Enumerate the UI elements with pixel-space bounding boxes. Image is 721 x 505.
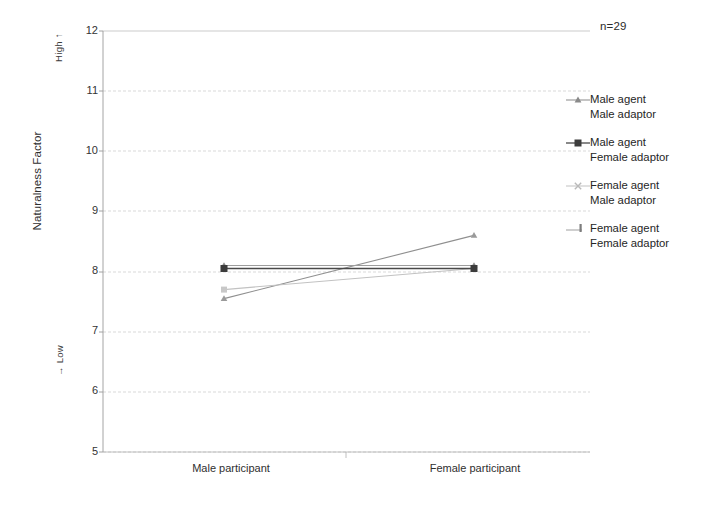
- legend-marker-square-icon: [566, 136, 590, 149]
- chart-figure: Naturalness Factor High ↑ → Low 12 11 10…: [0, 0, 721, 505]
- legend-label-line-1: Male agent: [590, 135, 669, 150]
- legend-marker-cross-icon: [566, 179, 590, 192]
- legend-item-male-agent-female-adaptor: Male agent Female adaptor: [566, 135, 718, 164]
- gridlines-horizontal: [103, 31, 590, 452]
- y-axis-ticks: [99, 31, 103, 452]
- legend-item-male-agent-male-adaptor: Male agent Male adaptor: [566, 92, 718, 121]
- legend-item-female-agent-female-adaptor: Female agent Female adaptor: [566, 221, 718, 250]
- legend-label-female-agent-female-adaptor: Female agent Female adaptor: [590, 221, 669, 250]
- legend-label-male-agent-female-adaptor: Male agent Female adaptor: [590, 135, 669, 164]
- legend-label-line-2: Female adaptor: [590, 150, 669, 165]
- legend-label-female-agent-male-adaptor: Female agent Male adaptor: [590, 178, 659, 207]
- legend-label-line-1: Female agent: [590, 221, 669, 236]
- legend-label-line-2: Female adaptor: [590, 236, 669, 251]
- legend-label-line-2: Male adaptor: [590, 193, 659, 208]
- legend-label-line-1: Female agent: [590, 178, 659, 193]
- series-female-agent-female-adaptor: [221, 266, 477, 293]
- legend-item-female-agent-male-adaptor: Female agent Male adaptor: [566, 178, 718, 207]
- chart-legend: Male agent Male adaptor Male agent Femal…: [566, 92, 718, 264]
- legend-marker-triangle-icon: [566, 93, 590, 106]
- legend-marker-bar-icon: [566, 222, 590, 235]
- legend-label-line-2: Male adaptor: [590, 107, 656, 122]
- legend-label-line-1: Male agent: [590, 92, 656, 107]
- series-female-agent-male-adaptor: [221, 232, 478, 301]
- legend-label-male-agent-male-adaptor: Male agent Male adaptor: [590, 92, 656, 121]
